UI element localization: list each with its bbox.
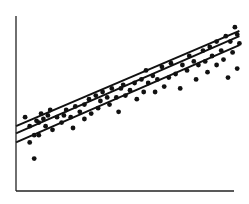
data-point [139,77,144,82]
data-point [223,34,228,39]
data-point [109,86,114,91]
data-point [128,88,133,93]
data-point [178,86,183,91]
fit-lines [16,31,239,143]
data-point [50,127,55,132]
data-point [226,75,231,80]
data-point [107,102,112,107]
data-point [134,97,139,102]
data-point [71,126,76,131]
data-point [68,115,73,120]
scatter-chart [0,0,249,204]
data-point [98,99,103,104]
data-point [196,63,201,68]
data-point [169,61,174,66]
data-point [173,72,178,77]
data-point [32,133,37,138]
data-point [87,97,92,102]
data-point [141,90,146,95]
data-point [62,113,67,118]
data-point [155,77,160,82]
data-point [82,102,87,107]
data-point [201,48,206,53]
data-point [203,59,208,64]
data-point [221,57,226,62]
data-point [77,109,82,114]
data-point [233,25,238,30]
data-point [36,133,41,138]
data-point [185,68,190,73]
data-point [235,32,240,37]
data-point [73,104,78,109]
data-point [146,81,151,86]
data-point [207,45,212,50]
data-point [123,93,128,98]
data-point [43,124,48,129]
data-point [32,156,37,161]
data-point [166,75,171,80]
data-point [228,39,233,44]
data-point [116,109,121,114]
data-point [23,115,28,120]
data-point [150,73,155,78]
data-point [144,68,149,73]
data-point [59,120,64,125]
data-point [41,117,46,122]
data-point [180,63,185,68]
data-point [237,41,242,46]
data-point [100,90,105,95]
data-point [214,39,219,44]
data-point [93,93,98,98]
data-point [48,108,53,113]
data-point [210,54,215,59]
data-point [39,111,44,116]
data-point [36,120,41,125]
data-point [230,50,235,55]
data-point [132,81,137,86]
data-point [187,54,192,59]
regression-line [16,36,239,133]
data-point [194,77,199,82]
data-point [160,64,165,69]
chart-canvas [0,0,249,204]
data-point [219,48,224,53]
data-point [105,95,110,100]
data-point [205,70,210,75]
data-point [162,84,167,89]
data-point [64,108,69,113]
data-point [121,82,126,87]
data-point [214,63,219,68]
data-point [191,59,196,64]
data-point [153,90,158,95]
data-point [89,111,94,116]
data-point [82,117,87,122]
data-point [55,115,60,120]
data-point [96,106,101,111]
data-point [46,113,51,118]
data-point [27,124,32,129]
data-point [114,95,119,100]
data-point [235,66,240,71]
data-point [27,140,32,145]
